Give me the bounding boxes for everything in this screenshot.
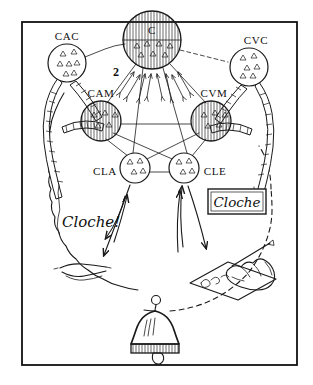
written-word-label: Cloche	[213, 194, 260, 210]
center-node-CLE[interactable]: CLE	[169, 153, 226, 183]
center-node-CVC[interactable]: CVC	[230, 34, 268, 86]
center-label-CLE: CLE	[204, 165, 227, 177]
center-node-C[interactable]: C	[123, 11, 181, 69]
center-label-CAC: CAC	[55, 30, 79, 42]
center-label-CVM: CVM	[201, 87, 228, 99]
center-node-CAC[interactable]: CAC	[48, 30, 86, 82]
center-label-C: C	[148, 24, 156, 36]
center-label-CLA: CLA	[93, 165, 117, 177]
right-nerve-tract	[210, 82, 274, 203]
center-label-CAM: CAM	[88, 87, 115, 99]
figure-root: C CAC CVC	[0, 0, 313, 385]
written-word-box: Cloche	[208, 189, 266, 214]
bell-illustration	[131, 296, 179, 365]
spoken-word-label: Cloche!	[62, 213, 120, 231]
center-node-CLA[interactable]: CLA	[93, 153, 150, 183]
arrow-fan: 2	[113, 65, 190, 99]
center-label-CVC: CVC	[244, 34, 268, 46]
annotation-number-2: 2	[113, 65, 119, 79]
center-node-CVM[interactable]: CVM	[191, 87, 231, 141]
center-node-CAM[interactable]: CAM	[81, 87, 121, 141]
schema-diagram: C CAC CVC	[0, 0, 313, 385]
